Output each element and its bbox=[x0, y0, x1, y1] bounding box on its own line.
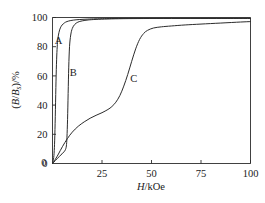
x-axis-unit: /kOe bbox=[145, 181, 166, 192]
x-tick-label: 50 bbox=[146, 168, 157, 179]
x-tick-label: 100 bbox=[243, 168, 259, 179]
y-tick-label: 20 bbox=[37, 129, 48, 140]
y-tick-label: 60 bbox=[37, 71, 48, 82]
curve-label-c: C bbox=[130, 73, 137, 84]
y-tick-label: 80 bbox=[37, 41, 48, 52]
curve-label-b: B bbox=[70, 67, 77, 78]
y-tick-label: 0 bbox=[42, 158, 47, 169]
curve-label-a: A bbox=[55, 35, 63, 46]
x-axis-title: H/kOe bbox=[136, 181, 165, 192]
y-tick-label: 40 bbox=[37, 100, 48, 111]
svg-text:H/kOe: H/kOe bbox=[136, 181, 165, 192]
chart-figure: 0255075100 020406080100 ABC H/kOe (B/Bs)… bbox=[0, 0, 265, 203]
y-tick-label: 100 bbox=[32, 12, 48, 23]
y-axis-close-unit: )/% bbox=[10, 71, 22, 86]
x-tick-label: 75 bbox=[196, 168, 207, 179]
magnetization-curves-chart: 0255075100 020406080100 ABC H/kOe (B/Bs)… bbox=[0, 0, 265, 203]
x-tick-label: 25 bbox=[97, 168, 108, 179]
